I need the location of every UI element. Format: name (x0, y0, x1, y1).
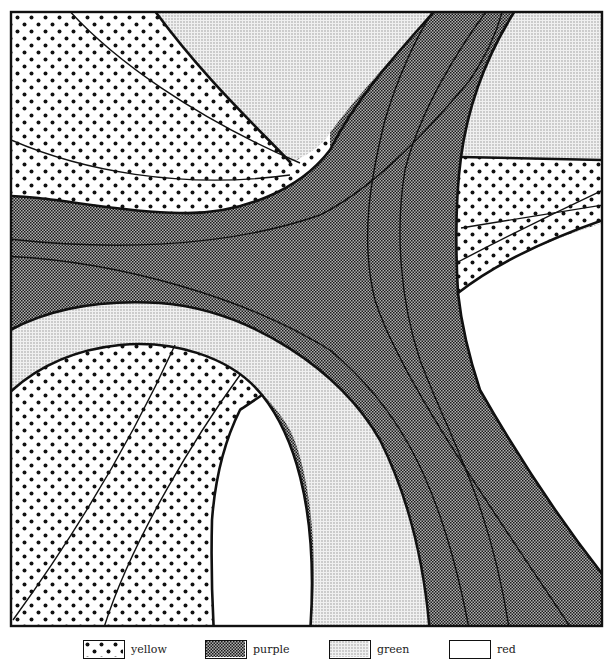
legend: yellow purple green red (0, 637, 613, 663)
legend-label: purple (253, 643, 289, 656)
legend-item-purple: purple (205, 637, 289, 661)
purple-swatch-icon (205, 640, 247, 659)
legend-item-red: red (449, 637, 516, 661)
yellow-swatch-icon (83, 640, 125, 659)
legend-label: yellow (131, 643, 167, 656)
legend-label: green (377, 643, 409, 656)
legend-item-green: green (329, 637, 409, 661)
legend-item-yellow: yellow (83, 637, 167, 661)
geologic-map (0, 0, 613, 634)
legend-label: red (497, 643, 516, 656)
green-swatch-icon (329, 640, 371, 659)
red-swatch-icon (449, 640, 491, 659)
